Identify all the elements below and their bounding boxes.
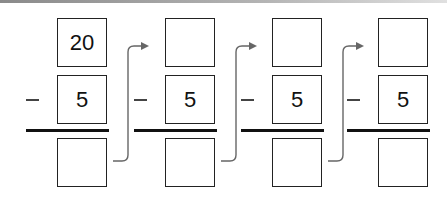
connector-arrows <box>0 0 447 198</box>
arrow-icon-3 <box>328 46 362 161</box>
arrow-icon-2 <box>221 46 255 161</box>
arrow-icon-1 <box>113 46 147 161</box>
